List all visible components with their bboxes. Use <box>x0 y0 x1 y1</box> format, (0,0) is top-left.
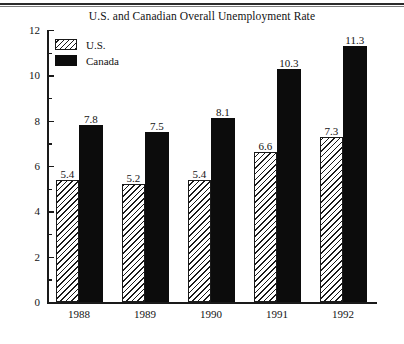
y-axis-minor-tick <box>47 279 52 280</box>
y-axis-tick-label: 6 <box>10 160 40 172</box>
bar-value-label: 11.3 <box>345 34 364 46</box>
bar-canada-1990: 8.1 <box>211 118 235 302</box>
y-axis-tick-label: 0 <box>10 296 40 308</box>
y-axis-major-tick <box>47 75 54 76</box>
bar-value-label: 7.5 <box>150 120 164 132</box>
legend-label-us: U.S. <box>86 39 106 51</box>
bar-us-1988: 5.4 <box>56 180 80 302</box>
y-axis-tick-label: 10 <box>10 69 40 81</box>
chart-legend: U.S. Canada <box>55 38 175 70</box>
legend-label-canada: Canada <box>86 55 119 67</box>
y-axis-major-tick <box>47 121 54 122</box>
bar-value-label: 5.4 <box>60 168 74 180</box>
y-axis-tick-label: 2 <box>10 251 40 263</box>
bar-canada-1988: 7.8 <box>79 125 103 302</box>
y-axis-minor-tick <box>47 53 52 54</box>
y-axis-minor-tick <box>47 189 52 190</box>
bar-us-1989: 5.2 <box>122 184 146 302</box>
solid-black-swatch-icon <box>55 55 77 66</box>
bar-canada-1992: 11.3 <box>343 46 367 302</box>
bar-value-label: 5.2 <box>126 172 140 184</box>
bar-canada-1989: 7.5 <box>145 132 169 302</box>
bar-value-label: 8.1 <box>216 106 230 118</box>
y-axis-minor-tick <box>47 143 52 144</box>
bar-us-1992: 7.3 <box>320 137 344 302</box>
y-axis-major-tick <box>47 302 54 303</box>
y-axis-tick-label: 8 <box>10 115 40 127</box>
y-axis-major-tick <box>47 166 54 167</box>
top-rule-divider <box>0 3 404 5</box>
y-axis-major-tick <box>47 30 54 31</box>
bar-us-1991: 6.6 <box>254 152 278 302</box>
y-axis-tick-label: 4 <box>10 205 40 217</box>
x-axis-tick-label-1992: 1992 <box>332 308 354 320</box>
y-axis-tick-label: 12 <box>10 24 40 36</box>
x-axis-tick-label-1991: 1991 <box>266 308 288 320</box>
plot-area: 5.47.85.27.55.48.16.610.37.311.3 <box>47 30 377 302</box>
hatched-swatch-icon <box>55 39 77 50</box>
y-axis-major-tick <box>47 257 54 258</box>
y-axis-minor-tick <box>47 234 52 235</box>
bar-canada-1991: 10.3 <box>277 69 301 302</box>
x-axis-tick-labels: 19881989199019911992 <box>47 308 377 328</box>
y-axis-major-tick <box>47 211 54 212</box>
y-axis-tick-labels: 024681012 <box>8 30 40 302</box>
legend-item-canada: Canada <box>55 54 175 67</box>
chart-title: U.S. and Canadian Overall Unemployment R… <box>0 10 404 22</box>
bar-us-1990: 5.4 <box>188 180 212 302</box>
y-axis-minor-tick <box>47 98 52 99</box>
x-axis-line <box>47 302 377 304</box>
bar-value-label: 7.8 <box>84 113 98 125</box>
bar-value-label: 10.3 <box>279 57 298 69</box>
legend-item-us: U.S. <box>55 38 175 51</box>
bar-value-label: 6.6 <box>258 140 272 152</box>
bar-value-label: 5.4 <box>192 168 206 180</box>
bar-value-label: 7.3 <box>324 125 338 137</box>
x-axis-tick-label-1990: 1990 <box>200 308 222 320</box>
top-rule-divider-secondary <box>0 6 404 7</box>
x-axis-tick-label-1989: 1989 <box>134 308 156 320</box>
x-axis-tick-label-1988: 1988 <box>68 308 90 320</box>
unemployment-rate-bar-chart: U.S. and Canadian Overall Unemployment R… <box>0 0 404 344</box>
